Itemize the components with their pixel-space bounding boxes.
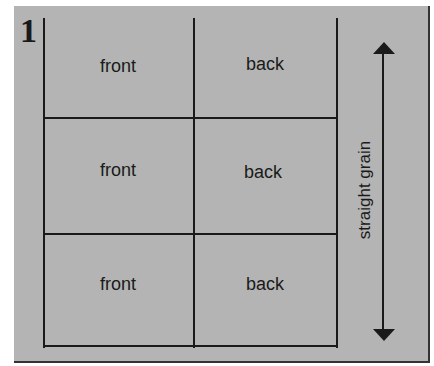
grid-row-divider-1 — [43, 117, 338, 119]
straight-grain-label: straight grain — [355, 141, 375, 239]
cell-front-row2: front — [43, 160, 193, 181]
cell-back-row1: back — [190, 54, 340, 75]
figure-number: 1 — [20, 14, 37, 48]
grain-arrow-up-icon — [372, 42, 396, 56]
cell-front-row3: front — [43, 274, 193, 295]
grid-row-divider-2 — [43, 233, 338, 235]
cell-front-row1: front — [43, 56, 193, 77]
grain-arrow-shaft — [382, 50, 384, 330]
grid-bottom-line — [43, 345, 338, 347]
cell-back-row3: back — [190, 274, 340, 295]
cell-back-row2: back — [188, 162, 338, 183]
grain-arrow-down-icon — [372, 328, 396, 342]
